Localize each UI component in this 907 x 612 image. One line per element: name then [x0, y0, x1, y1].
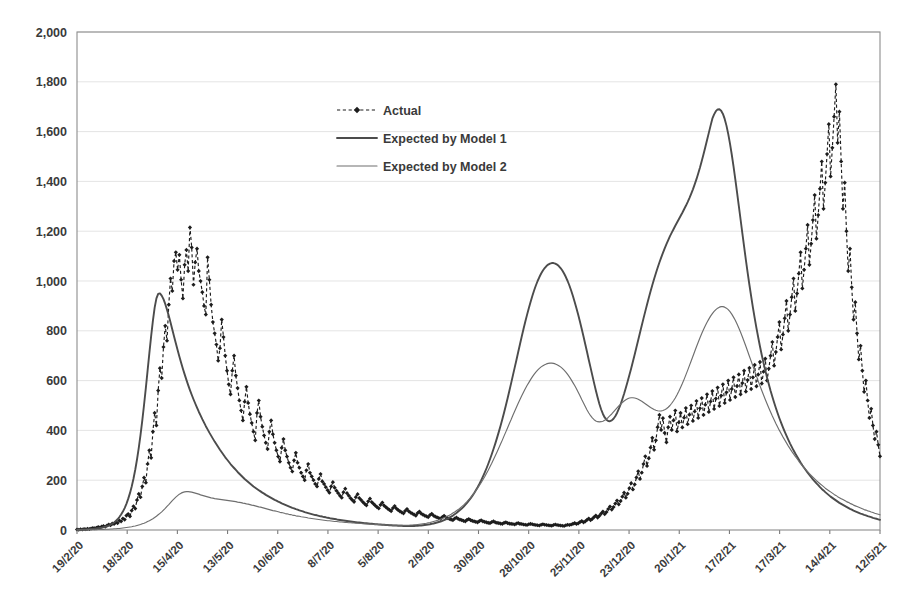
data-point-marker	[851, 318, 855, 322]
data-point-marker	[837, 110, 841, 114]
data-point-marker	[686, 422, 690, 426]
data-point-marker	[802, 268, 806, 272]
data-point-marker	[292, 458, 296, 462]
data-point-marker	[631, 487, 635, 491]
x-axis-tick-label: 15/4/20	[150, 539, 186, 575]
data-point-marker	[742, 369, 746, 373]
data-point-marker	[738, 392, 742, 396]
data-point-marker	[687, 413, 691, 417]
data-point-marker	[243, 400, 247, 404]
data-point-marker	[183, 263, 187, 267]
data-point-marker	[853, 300, 857, 304]
data-point-marker	[153, 411, 157, 415]
data-point-marker	[862, 390, 866, 394]
data-point-marker	[221, 335, 225, 339]
data-point-marker	[343, 487, 347, 491]
data-point-marker	[154, 423, 158, 427]
data-point-marker	[878, 454, 882, 458]
legend-marker-actual	[354, 107, 360, 113]
data-point-marker	[866, 398, 870, 402]
data-point-marker	[705, 392, 709, 396]
data-point-marker	[721, 382, 725, 386]
data-point-marker	[290, 469, 294, 473]
data-point-marker	[633, 482, 637, 486]
data-point-marker	[257, 398, 261, 402]
data-point-marker	[814, 237, 818, 241]
data-point-marker	[710, 389, 714, 393]
data-point-marker	[181, 296, 185, 300]
data-point-marker	[643, 454, 647, 458]
data-point-marker	[213, 331, 217, 335]
plot-series-group	[75, 82, 882, 532]
data-point-marker	[733, 395, 737, 399]
data-point-marker	[145, 462, 149, 466]
data-point-marker	[867, 416, 871, 420]
data-point-marker	[689, 403, 693, 407]
legend-label: Expected by Model 2	[383, 160, 507, 174]
data-point-marker	[280, 446, 284, 450]
data-point-marker	[781, 332, 785, 336]
data-point-marker	[641, 462, 645, 466]
data-point-marker	[130, 508, 134, 512]
data-point-marker	[735, 384, 739, 388]
data-point-marker	[620, 495, 624, 499]
data-point-marker	[671, 418, 675, 422]
data-point-marker	[696, 416, 700, 420]
data-point-marker	[661, 416, 665, 420]
x-axis-tick-label: 28/10/20	[497, 539, 537, 579]
data-point-marker	[271, 432, 275, 436]
data-point-marker	[657, 413, 661, 417]
data-point-marker	[174, 250, 178, 254]
data-point-marker	[195, 247, 199, 251]
data-point-marker	[712, 407, 716, 411]
data-point-marker	[163, 324, 167, 328]
data-point-marker	[730, 387, 734, 391]
data-point-marker	[807, 263, 811, 267]
data-point-marker	[161, 345, 165, 349]
data-point-marker	[160, 376, 164, 380]
data-point-marker	[818, 187, 822, 191]
data-point-marker	[827, 122, 831, 126]
data-point-marker	[768, 354, 772, 358]
data-point-marker	[848, 247, 852, 251]
data-point-marker	[650, 436, 654, 440]
data-point-marker	[731, 375, 735, 379]
data-point-marker	[184, 248, 188, 252]
data-point-marker	[191, 283, 195, 287]
data-point-marker	[253, 438, 257, 442]
data-point-marker	[844, 229, 848, 233]
data-point-marker	[723, 401, 727, 405]
data-point-marker	[663, 431, 667, 435]
data-point-marker	[724, 390, 728, 394]
y-axis-tick-label: 1,200	[36, 225, 67, 239]
x-axis-tick-label: 14/4/21	[803, 539, 839, 575]
chart-figure: 02004006008001,0001,2001,4001,6001,8002,…	[0, 0, 907, 612]
data-point-marker	[274, 448, 278, 452]
data-point-marker	[301, 474, 305, 478]
y-axis-tick-label: 1,800	[36, 75, 67, 89]
data-point-marker	[673, 408, 677, 412]
data-point-marker	[142, 476, 146, 480]
data-point-marker	[244, 385, 248, 389]
data-point-marker	[855, 331, 859, 335]
data-point-marker	[708, 399, 712, 403]
data-point-marker	[278, 459, 282, 463]
data-point-marker	[857, 357, 861, 361]
y-axis-tick-label: 600	[46, 374, 67, 388]
data-point-marker	[170, 289, 174, 293]
data-point-marker	[255, 411, 259, 415]
data-point-marker	[846, 269, 850, 273]
data-point-marker	[682, 416, 686, 420]
data-point-marker	[698, 406, 702, 410]
data-point-marker	[790, 295, 794, 299]
data-point-marker	[719, 393, 723, 397]
data-point-marker	[246, 401, 250, 405]
data-point-marker	[832, 115, 836, 119]
y-axis-tick-labels: 02004006008001,0001,2001,4001,6001,8002,…	[36, 26, 67, 538]
data-point-marker	[186, 269, 190, 273]
data-point-marker	[656, 425, 660, 429]
y-axis-tick-label: 400	[46, 424, 67, 438]
y-axis-tick-label: 1,000	[36, 275, 67, 289]
data-point-marker	[776, 335, 780, 339]
data-point-marker	[691, 419, 695, 423]
